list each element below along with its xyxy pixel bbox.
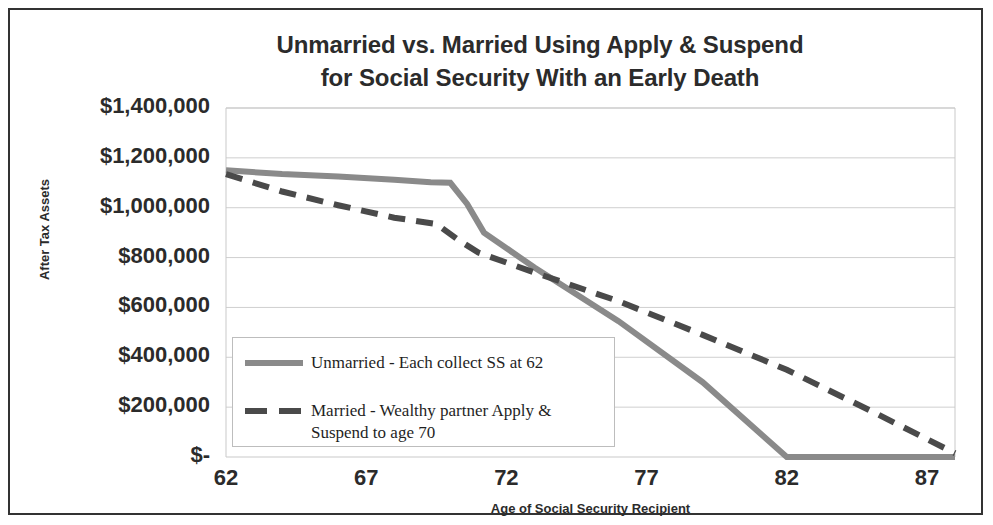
- plot-area: [10, 10, 993, 525]
- x-tick-label: 87: [887, 465, 967, 491]
- x-axis-tick-labels: 626772778287: [10, 465, 993, 497]
- x-tick-label: 67: [326, 465, 406, 491]
- legend-item[interactable]: Married - Wealthy partner Apply & Suspen…: [243, 400, 552, 444]
- chart-frame: Unmarried vs. Married Using Apply & Susp…: [8, 8, 983, 515]
- legend-item[interactable]: Unmarried - Each collect SS at 62: [243, 352, 543, 374]
- x-tick-label: 77: [607, 465, 687, 491]
- x-tick-label: 72: [466, 465, 546, 491]
- chart-legend: Unmarried - Each collect SS at 62Married…: [232, 337, 615, 447]
- legend-label: Married - Wealthy partner Apply & Suspen…: [311, 400, 552, 444]
- x-axis-title: Age of Social Security Recipient: [226, 501, 955, 516]
- legend-swatch-dashed-icon: [243, 402, 305, 420]
- x-tick-label: 82: [747, 465, 827, 491]
- legend-label: Unmarried - Each collect SS at 62: [311, 352, 543, 374]
- x-tick-label: 62: [186, 465, 266, 491]
- legend-swatch-solid-icon: [243, 354, 305, 372]
